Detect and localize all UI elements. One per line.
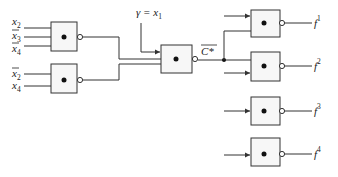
input-labels-gate-b: x2 x4 [11,67,21,94]
inversion-bubble-icon [279,63,284,68]
inversion-bubble-icon [279,151,284,156]
inversion-bubble-icon [77,77,82,82]
gate-f2 [251,52,285,81]
gate-f1 [251,10,285,37]
input-labels-gate-a: x2 x3 x4 [11,15,21,57]
output-f2-label: f2 [314,57,321,72]
gate-dot-icon [62,35,67,40]
gate-dot-icon [262,64,267,69]
gate-dot-icon [62,78,67,83]
inversion-bubble-icon [192,56,197,61]
gate-b [51,64,83,93]
logic-diagram: x2 x3 x4 x2 x4 γ = x1 C* [0,0,338,177]
inversion-bubble-icon [279,20,284,25]
output-f3-label: f3 [314,102,321,117]
svg-text:x2: x2 [11,15,21,30]
gamma-label: γ = x1 [136,6,162,21]
svg-text:x4: x4 [11,42,21,57]
output-f1-label: f1 [314,14,321,29]
inversion-bubble-icon [77,34,82,39]
gate-dot-icon [174,57,179,62]
c-star-label: C* [201,45,214,57]
output-f4-label: f4 [314,145,321,160]
gate-dot-icon [262,109,267,114]
gate-dot-icon [262,21,267,26]
gate-central [161,45,198,73]
inversion-bubble-icon [279,108,284,113]
gate-dot-icon [262,152,267,157]
gate-f4 [251,138,285,166]
gate-f3 [251,97,285,125]
gate-a [51,22,83,51]
